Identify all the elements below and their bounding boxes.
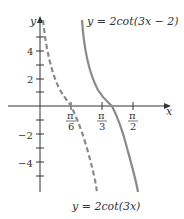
svg-text:6: 6 bbox=[68, 121, 74, 132]
x-tick-pi-2: π 2 bbox=[128, 110, 138, 132]
svg-text:2: 2 bbox=[130, 121, 136, 132]
curve1-label: y = 2cot(3x − 2) bbox=[86, 15, 179, 28]
y-axis-label: y bbox=[29, 15, 37, 28]
y-tick-4: 4 bbox=[27, 46, 33, 57]
svg-text:π: π bbox=[98, 110, 105, 121]
y-tick-2: 2 bbox=[27, 74, 33, 85]
x-axis-label: x bbox=[166, 105, 173, 118]
y-tick-neg4: −4 bbox=[18, 158, 33, 169]
x-tick-pi-3: π 3 bbox=[97, 110, 107, 132]
y-tick-neg2: −2 bbox=[18, 130, 33, 141]
cotangent-graph: 4 2 −2 −4 π 6 π 3 π 2 y x y = 2cot(3x − … bbox=[0, 0, 184, 219]
svg-text:π: π bbox=[129, 110, 136, 121]
curve2-label: y = 2cot(3x) bbox=[71, 200, 140, 213]
y-axis-arrow-icon bbox=[37, 16, 43, 23]
svg-text:3: 3 bbox=[99, 121, 105, 132]
